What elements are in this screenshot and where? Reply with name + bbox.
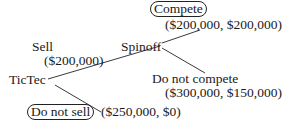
- spinoff-node: Spinoff: [121, 40, 161, 54]
- do-not-compete-payoff: ($300,000, $150,000): [165, 86, 282, 100]
- sell-value: ($200,000): [44, 54, 104, 68]
- sell-label: Sell: [32, 40, 53, 54]
- do-not-sell-payoff: ($250,000, $0): [101, 105, 181, 119]
- tictec-node: TicTec: [9, 73, 46, 87]
- compete-label: Compete: [150, 1, 207, 17]
- compete-payoff: ($200,000, $200,000): [165, 18, 282, 32]
- do-not-sell-label: Do not sell: [27, 104, 94, 120]
- do-not-compete-label: Do not compete: [152, 72, 238, 86]
- edge-do-not-compete: [162, 48, 205, 73]
